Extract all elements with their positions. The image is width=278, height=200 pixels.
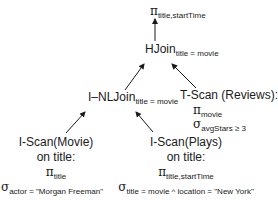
table-scan-reviews-node: T-Scan (Reviews): <box>180 89 278 102</box>
table-scan-reviews-label: T-Scan (Reviews): <box>180 89 278 102</box>
selection-symbol: σ <box>118 180 126 194</box>
projection-attributes: title <box>54 172 66 181</box>
index-key-label: on title: <box>167 150 206 164</box>
edge-reviews-to-hjoin <box>172 64 196 88</box>
projection-symbol: π <box>46 165 54 179</box>
selection-condition: avgStars ≥ 3 <box>201 124 246 133</box>
nested-loop-join-condition: title = movie <box>135 97 178 106</box>
edge-movie-to-nljoin <box>66 112 85 133</box>
selection-condition: actor = "Morgan Freeman" <box>9 187 103 196</box>
projection-symbol: π <box>158 165 166 179</box>
index-scan-movie-title: I-Scan(Movie) <box>19 136 94 149</box>
edge-plays-to-nljoin <box>136 112 153 132</box>
projection-attributes: title,startTime <box>158 11 206 20</box>
nested-loop-join-node: I–NLJointitle = movie <box>88 91 178 108</box>
selection-symbol: σ <box>1 180 9 194</box>
projection-attributes: title,startTime <box>166 172 214 181</box>
index-scan-plays-label: I-Scan(Plays) <box>150 135 222 149</box>
index-scan-plays-key: on title: <box>167 151 206 164</box>
projection-symbol: π <box>150 4 158 18</box>
hash-join-label: HJoin <box>145 42 176 56</box>
reviews-selection: σavgStars ≥ 3 <box>193 118 246 135</box>
index-scan-movie-label: I-Scan(Movie) <box>19 135 94 149</box>
projection-symbol: π <box>193 103 201 117</box>
selection-condition: title = movie ^ location = "New York" <box>126 187 253 196</box>
hash-join-condition: title = movie <box>176 49 219 58</box>
plays-selection: σtitle = movie ^ location = "New York" <box>118 181 253 198</box>
selection-symbol: σ <box>193 117 201 131</box>
movie-selection: σactor = "Morgan Freeman" <box>1 181 103 198</box>
index-scan-movie-key: on title: <box>37 151 76 164</box>
index-scan-plays-title: I-Scan(Plays) <box>150 136 222 149</box>
index-key-label: on title: <box>37 150 76 164</box>
hash-join-node: HJointitle = movie <box>145 43 219 60</box>
edge-nljoin-to-hjoin <box>125 64 144 90</box>
root-projection: πtitle,startTime <box>150 5 206 22</box>
nested-loop-join-label: I–NLJoin <box>88 90 135 104</box>
